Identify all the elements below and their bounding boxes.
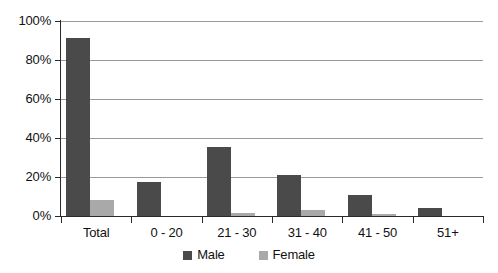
x-tick [61, 217, 62, 223]
chart-legend: MaleFemale [0, 248, 498, 262]
bar-chart: 0%20%40%60%80%100% Total0 - 2021 - 3031 … [0, 0, 498, 273]
y-tick [55, 21, 61, 22]
legend-label-male: Male [197, 248, 224, 262]
gridline-20 [61, 177, 483, 178]
legend-item-male[interactable]: Male [183, 248, 224, 262]
y-axis-label-20: 20% [0, 170, 51, 183]
x-tick [413, 217, 414, 223]
y-axis-label-60: 60% [0, 92, 51, 105]
gridline-100 [61, 21, 483, 22]
x-axis-label-41-50: 41 - 50 [342, 226, 412, 240]
bar-male-21-30 [207, 147, 231, 216]
y-tick [55, 60, 61, 61]
gridline-80 [61, 60, 483, 61]
y-axis-label-80: 80% [0, 53, 51, 66]
bar-male-41-50 [348, 195, 372, 216]
y-tick [55, 177, 61, 178]
bar-male-51plus [418, 208, 442, 216]
y-axis-line [60, 20, 61, 217]
x-tick [483, 217, 484, 223]
gridline-60 [61, 99, 483, 100]
x-axis-label-0-20: 0 - 20 [131, 226, 201, 240]
x-axis-label-total: Total [61, 226, 131, 240]
female-swatch-icon [259, 251, 268, 260]
legend-label-female: Female [273, 248, 315, 262]
y-axis-label-100: 100% [0, 14, 51, 27]
bar-male-0-20 [137, 182, 161, 216]
x-axis-label-21-30: 21 - 30 [202, 226, 272, 240]
x-tick [131, 217, 132, 223]
y-axis-label-40: 40% [0, 131, 51, 144]
legend-item-female[interactable]: Female [259, 248, 315, 262]
y-axis-label-0: 0% [0, 209, 51, 222]
y-tick [55, 99, 61, 100]
y-tick [55, 138, 61, 139]
x-tick [202, 217, 203, 223]
x-axis-label-31-40: 31 - 40 [272, 226, 342, 240]
gridline-40 [61, 138, 483, 139]
male-swatch-icon [183, 251, 192, 260]
bar-male-total [66, 38, 90, 216]
x-tick [342, 217, 343, 223]
plot-area [61, 21, 483, 216]
bar-female-total [90, 200, 114, 216]
x-tick [272, 217, 273, 223]
x-axis-label-51plus: 51+ [413, 226, 483, 240]
bar-male-31-40 [277, 175, 301, 216]
